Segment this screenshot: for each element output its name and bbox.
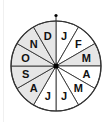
month-label: A [82,68,90,80]
month-label: A [30,82,38,94]
month-label: D [44,30,52,42]
month-label: F [75,38,82,50]
month-label: S [22,68,29,80]
top-marker-dot [54,14,57,17]
month-label: M [82,52,91,64]
month-wheel: JFMAMJJASOND [0,0,107,122]
month-label: M [74,82,83,94]
month-label: J [61,30,67,42]
month-label: O [21,52,30,64]
center-dot [53,63,58,68]
month-label: N [30,38,38,50]
month-label: J [45,90,51,102]
month-label: J [61,90,67,102]
